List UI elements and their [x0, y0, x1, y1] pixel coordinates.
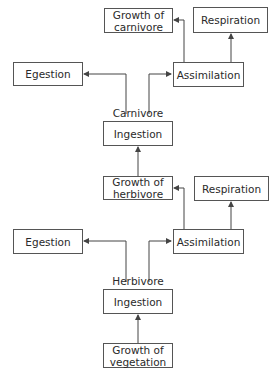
growth-of-herbivore-box: Growth of herbivore	[103, 176, 173, 200]
growth-of-carnivore-box: Growth of carnivore	[104, 8, 173, 33]
herbivore-egestion-box: Egestion	[13, 229, 83, 254]
herbivore-label: Herbivore	[103, 275, 173, 287]
carnivore-egestion-box: Egestion	[13, 62, 83, 86]
herbivore-assimilation-box: Assimilation	[173, 229, 244, 254]
growth-of-vegetation-box: Growth of vegetation	[103, 343, 173, 368]
carnivore-assimilation-box: Assimilation	[173, 62, 244, 87]
herbivore-respiration-box: Respiration	[194, 176, 269, 201]
herbivore-ingestion-box: Ingestion	[103, 289, 173, 314]
carnivore-ingestion-box: Ingestion	[103, 121, 173, 146]
carnivore-label: Carnivore	[103, 107, 173, 119]
carnivore-respiration-box: Respiration	[193, 7, 268, 33]
